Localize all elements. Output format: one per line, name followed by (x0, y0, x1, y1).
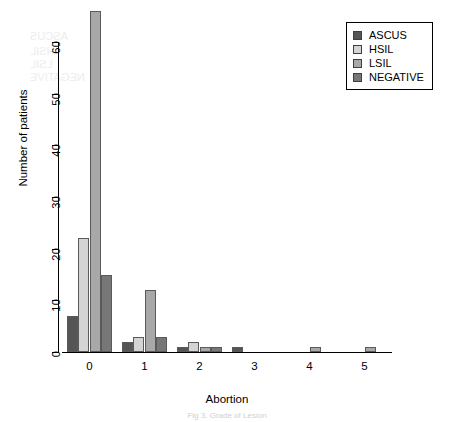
bar-lsil-1 (145, 290, 156, 352)
x-axis-tick-label: 3 (235, 360, 275, 372)
bar-hsil-1 (133, 337, 144, 353)
x-axis-tick-label: 0 (70, 360, 110, 372)
bar-ascus-0 (67, 316, 78, 352)
legend-label: HSIL (369, 44, 393, 55)
bar-lsil-2 (200, 347, 211, 352)
x-axis-line (62, 352, 392, 353)
bar-negative-1 (156, 337, 167, 353)
bar-ascus-2 (177, 347, 188, 352)
x-axis-title: Abortion (0, 393, 454, 405)
x-axis-tick-label: 1 (125, 360, 165, 372)
legend-label: LSIL (369, 58, 392, 69)
y-axis-title: Number of patients (17, 124, 29, 138)
bar-ascus-1 (122, 342, 133, 352)
y-axis-tick-label: 0 (50, 351, 62, 357)
y-axis-tick-label: 50 (50, 93, 62, 106)
y-axis-title-text: Number of patients (17, 78, 29, 198)
legend-item: LSIL (353, 56, 424, 70)
legend: ASCUSHSILLSILNEGATIVE (346, 22, 433, 90)
bar-lsil-4 (310, 347, 321, 352)
legend-item: NEGATIVE (353, 70, 424, 84)
legend-item: HSIL (353, 42, 424, 56)
legend-label: NEGATIVE (369, 72, 424, 83)
plot-area (62, 16, 392, 352)
bar-ascus-3 (232, 347, 243, 352)
legend-swatch-icon (353, 31, 362, 40)
x-axis-tick-label: 2 (180, 360, 220, 372)
figure-caption: Fig 3. Grade of Lesion (0, 411, 454, 420)
bar-chart-figure: ASCUS HSIL LSIL NEGATIVE 0102030405060 0… (0, 0, 454, 422)
y-axis-tick-label: 40 (50, 144, 62, 157)
y-axis-tick-label: 30 (50, 196, 62, 209)
y-axis-tick-label: 10 (50, 299, 62, 312)
legend-swatch-icon (353, 59, 362, 68)
x-axis-tick-label: 4 (290, 360, 330, 372)
bleed-through-artifact: LSIL (30, 58, 53, 70)
y-axis-tick-label: 60 (50, 41, 62, 54)
legend-item: ASCUS (353, 28, 424, 42)
legend-label: ASCUS (369, 30, 407, 41)
bar-lsil-0 (90, 11, 101, 352)
x-axis-tick-label: 5 (345, 360, 385, 372)
legend-swatch-icon (353, 73, 362, 82)
y-axis-tick-label: 20 (50, 248, 62, 261)
bar-negative-0 (101, 275, 112, 353)
legend-swatch-icon (353, 45, 362, 54)
bar-hsil-2 (188, 342, 199, 352)
bar-negative-2 (211, 347, 222, 352)
bar-lsil-5 (365, 347, 376, 352)
bar-hsil-0 (78, 238, 89, 352)
